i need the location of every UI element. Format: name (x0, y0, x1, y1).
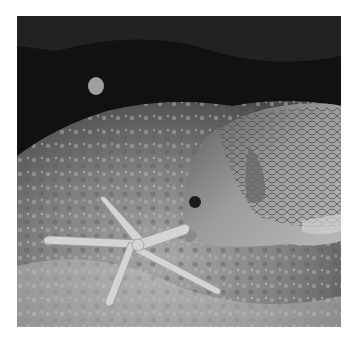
photo (17, 16, 341, 327)
photo-illustration (17, 16, 341, 327)
pebble (88, 77, 104, 95)
fish-eye (189, 196, 201, 208)
